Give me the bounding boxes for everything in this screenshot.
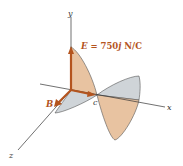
z-axis-label: z [8, 151, 14, 160]
y-axis-label: y [67, 9, 73, 18]
c-speed-label: c [93, 98, 98, 107]
e-units: N/C [121, 41, 142, 51]
x-axis-label: x [167, 103, 172, 112]
em-wave-diagram: y x z E = 750j N/C B c [0, 0, 183, 166]
e-field-wave-first-lobe [71, 47, 97, 95]
e-field-label: E = 750j N/C [80, 41, 142, 51]
e-field-wave-second-lobe [97, 95, 139, 140]
e-magnitude: = 750 [87, 41, 118, 51]
b-field-label: B [45, 99, 53, 109]
